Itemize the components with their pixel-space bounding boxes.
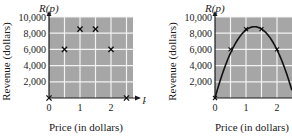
x-tick-label: 2 <box>109 102 114 113</box>
x-axis-title: Price (in dollars) <box>49 121 123 134</box>
y-tick-label: 4,000 <box>24 60 47 71</box>
y-tick-label: 2,000 <box>190 76 213 87</box>
x-axis-title: Price (in dollars) <box>215 121 289 134</box>
y-tick-label: 4,000 <box>190 60 213 71</box>
y-axis-title: Revenue (dollars) <box>166 22 179 101</box>
scatter-chart: pR(p)2,0004,0006,0008,00010,000012Price … <box>0 0 146 136</box>
x-tick-label: 1 <box>244 102 249 113</box>
x-tick-label: 2 <box>275 102 280 113</box>
y-tick-label: 8,000 <box>24 28 47 39</box>
y-tick-label: 2,000 <box>24 76 47 87</box>
y-tick-label: 6,000 <box>24 44 47 55</box>
x-tick-label: 0 <box>47 102 52 113</box>
x-tick-label: 0 <box>213 102 218 113</box>
quadratic-chart-panel: R(p)2,0004,0006,0008,00010,000012Price (… <box>146 0 292 136</box>
x-axis-arrow-icon <box>135 96 141 101</box>
x-tick-label: 1 <box>78 102 83 113</box>
quadratic-chart: R(p)2,0004,0006,0008,00010,000012Price (… <box>146 0 292 136</box>
y-tick-label: 8,000 <box>190 28 213 39</box>
y-tick-label: 10,000 <box>185 12 213 23</box>
y-tick-label: 10,000 <box>19 12 47 23</box>
y-tick-label: 6,000 <box>190 44 213 55</box>
plot-area <box>49 17 133 98</box>
y-axis-title: Revenue (dollars) <box>0 22 13 101</box>
scatter-chart-panel: pR(p)2,0004,0006,0008,00010,000012Price … <box>0 0 146 136</box>
